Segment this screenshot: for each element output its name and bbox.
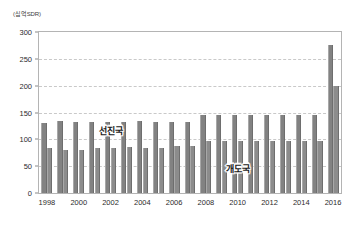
x-tick-label: 1998 (39, 198, 56, 207)
x-axis: 1998200020022004200620082010201220142016 (39, 196, 341, 216)
bar (47, 148, 52, 193)
bars-layer: 선진국개도국 (39, 32, 341, 193)
bar (280, 115, 285, 193)
y-tick-label: 250 (19, 54, 32, 63)
bar (232, 115, 237, 193)
bar (57, 121, 62, 193)
x-tick-label: 2002 (102, 198, 119, 207)
bar (190, 146, 195, 193)
bar (317, 141, 322, 193)
y-tick-label: 300 (19, 28, 32, 37)
bar (216, 115, 221, 193)
y-tick-label: 200 (19, 81, 32, 90)
bar (169, 122, 174, 193)
bar (63, 150, 68, 193)
x-tick-label: 2000 (70, 198, 87, 207)
bar (302, 141, 307, 193)
bar (264, 115, 269, 193)
y-axis-unit-label: (십억SDR) (13, 9, 41, 18)
bar (111, 148, 116, 193)
y-tick-label: 0 (28, 189, 32, 198)
x-tick-label: 2008 (198, 198, 215, 207)
series-annotation-label: 개도국 (226, 161, 250, 174)
bar (41, 123, 46, 193)
bar (254, 141, 259, 193)
bar (73, 122, 78, 193)
bar (312, 115, 317, 193)
series-annotation-label: 선진국 (99, 123, 123, 136)
bar (89, 122, 94, 193)
x-tick-label: 2004 (134, 198, 151, 207)
bar (127, 147, 132, 193)
bar (153, 122, 158, 193)
bar (185, 122, 190, 193)
bar (286, 141, 291, 193)
bar (174, 146, 179, 193)
y-tick-label: 150 (19, 108, 32, 117)
bar (328, 45, 333, 193)
x-tick-label: 2006 (166, 198, 183, 207)
bar-chart: (십억SDR) 050100150200250300 선진국개도국 199820… (0, 0, 351, 228)
bar (143, 148, 148, 193)
x-tick-label: 2016 (325, 198, 342, 207)
bar (137, 121, 142, 193)
x-tick-label: 2014 (293, 198, 310, 207)
y-tick-label: 50 (24, 162, 32, 171)
bar (200, 115, 205, 193)
y-tick-label: 100 (19, 135, 32, 144)
bar (95, 148, 100, 193)
x-tick-label: 2010 (229, 198, 246, 207)
bar (270, 141, 275, 193)
x-tick-label: 2012 (261, 198, 278, 207)
y-axis: 050100150200250300 (0, 31, 38, 194)
bar (159, 148, 164, 193)
bar (206, 141, 211, 193)
bar (248, 115, 253, 193)
bar (79, 150, 84, 193)
bar (296, 115, 301, 193)
bar (333, 86, 338, 193)
